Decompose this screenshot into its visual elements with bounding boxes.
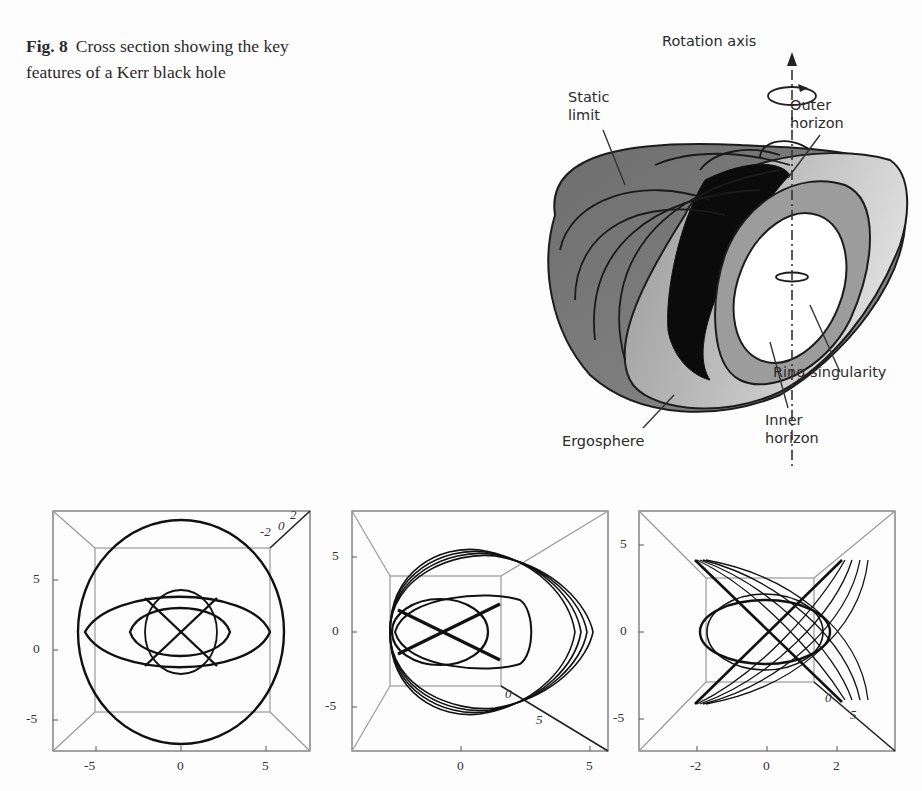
figure-caption: Fig. 8Cross section showing the key feat…: [26, 33, 316, 85]
y-tick: -5: [613, 710, 624, 726]
x-tick: 2: [833, 758, 840, 774]
diagonal-tick: 2: [290, 507, 297, 523]
x-tick: 5: [586, 758, 593, 774]
ring-singularity-label: Ring singularity: [773, 363, 886, 381]
y-tick: 5: [620, 536, 627, 552]
figure-label: Fig. 8: [26, 36, 68, 56]
x-tick: 0: [763, 758, 770, 774]
diagram-graphic: [460, 0, 922, 480]
inner-horizon-label-line1: Inner: [765, 411, 803, 429]
x-tick: -5: [84, 758, 95, 774]
outer-horizon-label-line2: horizon: [790, 114, 844, 132]
diagonal-tick: 0: [505, 686, 512, 702]
diagonal-tick: 5: [850, 707, 857, 723]
diagonal-tick: -2: [260, 524, 271, 540]
y-tick: 0: [33, 641, 40, 657]
y-tick: 5: [33, 571, 40, 587]
y-tick: 0: [332, 623, 339, 639]
static-limit-label-line2: limit: [568, 106, 600, 124]
y-tick: 5: [332, 548, 339, 564]
ergosphere-label: Ergosphere: [562, 432, 644, 450]
x-tick: -2: [690, 758, 701, 774]
diagonal-tick: 5: [536, 712, 543, 728]
orbit-plot-1: 5 0 -5 -5 0 5 -2 0 2: [20, 490, 320, 760]
orbit-plot-3-graphic: [620, 490, 920, 760]
orbit-plot-2: 5 0 -5 0 5 0 5: [320, 490, 620, 760]
orbit-plot-1-graphic: [20, 490, 320, 760]
x-tick: 5: [262, 758, 269, 774]
y-tick: 0: [620, 623, 627, 639]
x-tick: 0: [457, 758, 464, 774]
y-tick: -5: [325, 698, 336, 714]
static-limit-label-line1: Static: [568, 88, 609, 106]
y-tick: -5: [26, 711, 37, 727]
orbit-plot-2-graphic: [320, 490, 620, 760]
diagonal-tick: 0: [825, 690, 832, 706]
rotation-axis-label: Rotation axis: [662, 32, 756, 50]
outer-horizon-label-line1: Outer: [790, 96, 831, 114]
kerr-black-hole-diagram: Rotation axis Static limit Outer horizon…: [460, 0, 922, 480]
x-tick: 0: [177, 758, 184, 774]
inner-horizon-label-line2: horizon: [765, 429, 819, 447]
orbit-plot-3: 5 0 -5 -2 0 2 0 5: [620, 490, 920, 760]
diagonal-tick: 0: [278, 518, 285, 534]
